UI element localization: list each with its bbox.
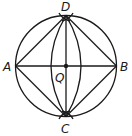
segment-bc: [66, 66, 117, 117]
label-d: D: [61, 0, 70, 14]
label-c: C: [61, 122, 70, 136]
label-b: B: [120, 60, 128, 74]
label-a: A: [2, 60, 11, 74]
point-q: [64, 64, 68, 68]
segment-ad: [16, 16, 67, 67]
label-q: Q: [55, 71, 64, 85]
geometry-diagram: D C A B Q: [0, 0, 132, 136]
segment-db: [66, 16, 117, 67]
